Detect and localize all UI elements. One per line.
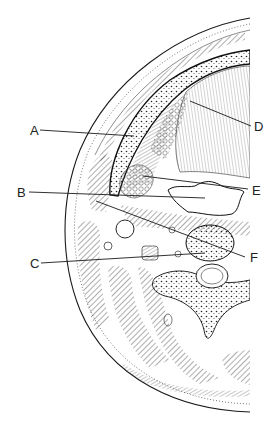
posterior-muscle-4	[222, 350, 250, 385]
internal-jugular-vein	[116, 220, 134, 238]
label-A: A	[30, 124, 39, 137]
posterior-muscle-1	[78, 221, 110, 330]
label-D: D	[254, 120, 263, 133]
nerve-bundle	[142, 246, 158, 260]
masseter-muscle	[87, 155, 112, 212]
carotid-artery	[104, 242, 112, 250]
label-E: E	[252, 184, 261, 197]
leader-line-C	[41, 253, 205, 263]
small-vessel	[175, 251, 181, 257]
label-C: C	[30, 257, 39, 270]
vertebral-body	[186, 225, 234, 261]
anatomical-cross-section	[0, 0, 277, 426]
label-B: B	[17, 186, 26, 199]
label-F: F	[250, 251, 258, 264]
pharynx-airway	[168, 182, 244, 216]
